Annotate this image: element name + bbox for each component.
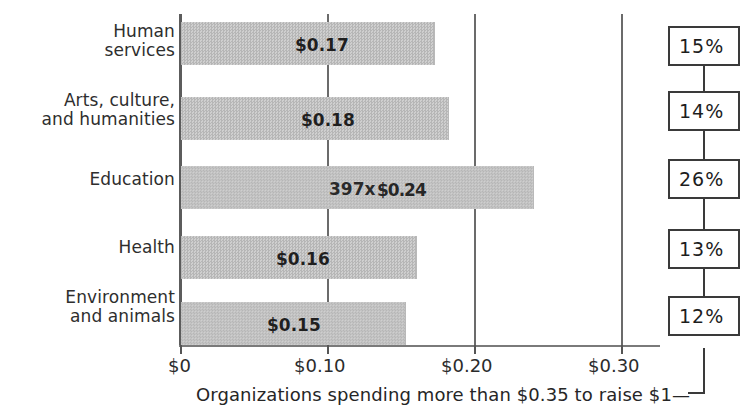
category-label-environment-animals: Environment and animals xyxy=(65,288,175,326)
x-tick-label-010: $0.10 xyxy=(294,355,346,376)
percent-box-human-services: 15% xyxy=(668,26,740,66)
percent-connector-3 xyxy=(703,199,705,229)
bar-value-education: $0.24 xyxy=(377,180,426,200)
bar-value-arts-culture-humanities: $0.18 xyxy=(301,110,355,130)
x-tick-label-0: $0 xyxy=(168,355,191,376)
percent-box-education: 26% xyxy=(668,159,740,199)
x-tick-label-030: $0.30 xyxy=(588,355,640,376)
category-label-human-services: Human services xyxy=(104,22,175,60)
bar-overlay-text-education: 397x xyxy=(329,179,375,199)
percent-label-environment-animals: 12% xyxy=(679,305,724,327)
percent-label-human-services: 15% xyxy=(679,35,724,57)
caption-leader-vertical xyxy=(703,348,705,394)
percent-box-arts-culture-humanities: 14% xyxy=(668,91,740,131)
percent-connector-1 xyxy=(703,66,705,91)
caption-leader-horizontal xyxy=(688,392,705,394)
category-label-arts-culture-humanities: Arts, culture, and humanities xyxy=(41,91,175,129)
gridline-030 xyxy=(621,14,623,345)
x-tick-020 xyxy=(474,345,476,354)
x-tick-010 xyxy=(327,345,329,354)
category-label-education: Education xyxy=(89,170,175,189)
x-tick-030 xyxy=(621,345,623,354)
percent-label-health: 13% xyxy=(679,238,724,260)
x-tick-label-020: $0.20 xyxy=(441,355,493,376)
percent-connector-2 xyxy=(703,131,705,159)
category-label-health: Health xyxy=(119,238,175,257)
x-tick-0 xyxy=(180,345,182,354)
bar-value-environment-animals: $0.15 xyxy=(267,315,321,335)
bar-value-health: $0.16 xyxy=(276,249,330,269)
percent-box-environment-animals: 12% xyxy=(668,296,740,336)
bar-value-human-services: $0.17 xyxy=(295,35,349,55)
percent-label-arts-culture-humanities: 14% xyxy=(679,100,724,122)
plot-area: $0 $0.10 $0.20 $0.30 $0.17 $0.18 397x $0… xyxy=(181,14,660,345)
percent-connector-4 xyxy=(703,269,705,296)
x-axis-line xyxy=(179,345,660,347)
percent-label-education: 26% xyxy=(679,168,724,190)
percent-box-health: 13% xyxy=(668,229,740,269)
chart-caption: Organizations spending more than $0.35 t… xyxy=(196,384,690,405)
